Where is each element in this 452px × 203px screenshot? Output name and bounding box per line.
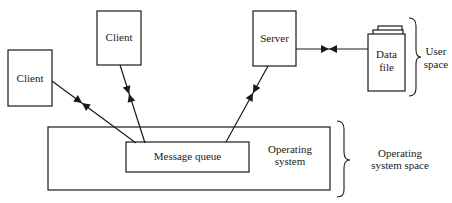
os-space-brace (337, 121, 350, 197)
client-left-label: Client (8, 72, 52, 84)
os-space-label-2: system space (350, 159, 450, 171)
user-space-label-1: User (420, 45, 452, 57)
data-file-label-2: file (368, 61, 405, 73)
os-space-label-1: Operating (350, 147, 450, 159)
diagram-canvas (0, 0, 452, 203)
client-top-label: Client (97, 31, 141, 43)
data-file-label-1: Data (368, 48, 405, 60)
server-label: Server (253, 32, 296, 44)
user-space-brace (409, 18, 421, 96)
os-label-1: Operating (262, 143, 318, 155)
os-label-2: system (262, 155, 318, 167)
message-queue-label: Message queue (126, 150, 249, 162)
user-space-label-2: space (420, 58, 452, 70)
